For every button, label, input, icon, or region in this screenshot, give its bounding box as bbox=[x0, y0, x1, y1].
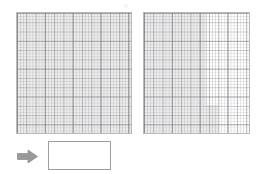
canvas bbox=[0, 0, 263, 174]
answer-box-value bbox=[49, 142, 110, 169]
right-arrow-icon bbox=[17, 149, 38, 164]
result-grid-panel[interactable] bbox=[143, 12, 250, 134]
answer-box[interactable] bbox=[48, 141, 111, 170]
source-grid-fill bbox=[17, 13, 131, 133]
artifact-speck bbox=[124, 4, 128, 8]
result-grid-fill-lower bbox=[144, 105, 218, 134]
source-grid-panel[interactable] bbox=[16, 12, 132, 134]
right-arrow-glyph bbox=[17, 149, 38, 164]
result-grid-fill-upper bbox=[144, 13, 207, 105]
